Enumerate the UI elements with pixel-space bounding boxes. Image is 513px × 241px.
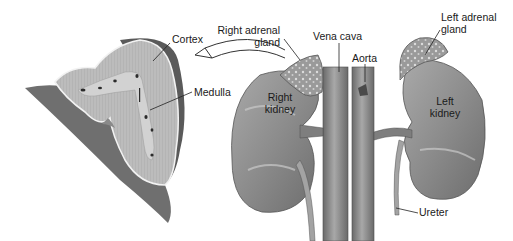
label-aorta: Aorta — [352, 53, 377, 64]
vena-cava — [323, 67, 348, 241]
label-right-kidney-line2: kidney — [258, 104, 302, 115]
label-cortex: Cortex — [172, 34, 203, 45]
left-kidney — [403, 60, 485, 200]
label-medulla: Medulla — [194, 87, 231, 98]
label-ureter: Ureter — [419, 207, 448, 218]
label-left-kidney-line2: kidney — [423, 108, 467, 119]
label-left-adrenal-line2: gland — [441, 24, 467, 35]
adrenal-cross-section — [25, 38, 185, 223]
aorta — [352, 67, 374, 241]
adrenal-kidney-diagram: Cortex Medulla Right adrenal gland Vena … — [0, 0, 513, 241]
label-right-adrenal-line1: Right adrenal — [206, 25, 280, 36]
label-vena-cava: Vena cava — [313, 31, 362, 42]
label-left-kidney-line1: Left — [423, 96, 467, 107]
label-right-kidney-line1: Right — [258, 92, 302, 103]
label-left-adrenal-line1: Left adrenal — [441, 12, 496, 23]
label-right-adrenal-line2: gland — [206, 37, 280, 48]
